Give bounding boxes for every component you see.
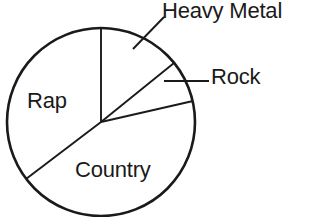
pie-label-rock: Rock (211, 66, 260, 88)
pie-chart-figure: Heavy Metal Rock Rap Country (0, 0, 317, 217)
pie-label-rap: Rap (27, 90, 67, 112)
leader-line-heavy-metal (133, 17, 164, 49)
pie-label-country: Country (75, 159, 151, 181)
pie-label-heavy-metal: Heavy Metal (162, 0, 282, 22)
